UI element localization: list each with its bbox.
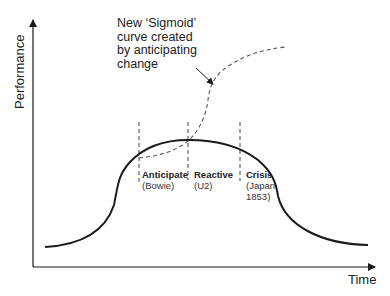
sigmoid-curve-diagram: Performance Time New ‘Sigmoid’ curve cre…	[0, 0, 390, 296]
phase-crisis: Crisis (Japan 1853)	[246, 169, 275, 202]
phase-subtitle: (Japan	[246, 180, 275, 191]
x-axis-label: Time	[348, 272, 376, 287]
annotation-arrow-icon	[196, 68, 213, 84]
phase-title: Reactive	[194, 169, 233, 180]
performance-bell-curve	[45, 140, 368, 247]
annotation-line: by anticipating	[117, 44, 197, 58]
phase-title: Crisis	[246, 169, 275, 180]
annotation-line: New ‘Sigmoid’	[117, 17, 197, 31]
phase-subtitle: (Bowie)	[142, 180, 188, 191]
sigmoid-annotation: New ‘Sigmoid’ curve created by anticipat…	[117, 17, 197, 71]
phase-subtitle: (U2)	[194, 180, 233, 191]
phase-anticipate: Anticipate (Bowie)	[142, 169, 188, 191]
phase-reactive: Reactive (U2)	[194, 169, 233, 191]
phase-subtitle: 1853)	[246, 191, 275, 202]
annotation-line: curve created	[117, 31, 197, 45]
phase-title: Anticipate	[142, 169, 188, 180]
y-axis-label: Performance	[12, 39, 28, 109]
annotation-line: change	[117, 58, 197, 72]
